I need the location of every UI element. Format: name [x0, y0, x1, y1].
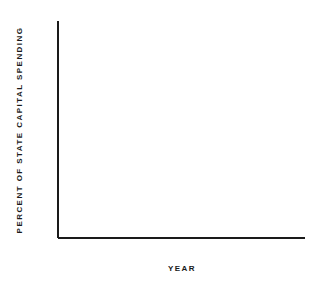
x-axis-title: YEAR: [168, 264, 196, 273]
axes: [58, 21, 305, 238]
chart-figure: YEAR PERCENT OF STATE CAPITAL SPENDING: [0, 0, 326, 292]
y-axis-title: PERCENT OF STATE CAPITAL SPENDING: [15, 27, 24, 234]
line-chart: YEAR PERCENT OF STATE CAPITAL SPENDING: [0, 0, 326, 292]
